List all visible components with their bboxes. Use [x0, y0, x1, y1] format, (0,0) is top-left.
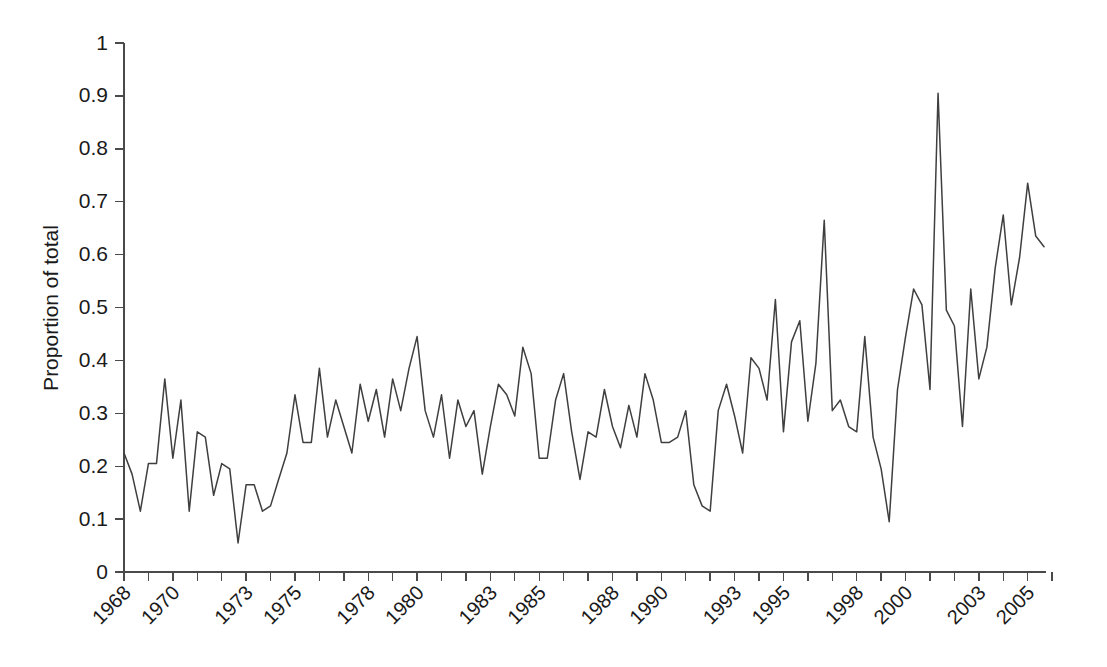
y-tick-label: 0.5 [79, 295, 108, 318]
chart-figure: 00.10.20.30.40.50.60.70.80.91 1968197019… [0, 0, 1107, 667]
y-axis-ticks [115, 43, 124, 572]
x-tick-label: 1990 [625, 581, 672, 628]
x-tick-label: 2005 [991, 581, 1038, 628]
y-tick-label: 0.4 [79, 348, 109, 371]
x-tick-label: 1995 [747, 581, 794, 628]
y-tick-label: 0.3 [79, 401, 108, 424]
y-axis-title: Proportion of total [39, 225, 62, 391]
line-chart: 00.10.20.30.40.50.60.70.80.91 1968197019… [0, 0, 1107, 667]
x-tick-label: 1988 [576, 581, 623, 628]
x-tick-label: 1985 [503, 581, 550, 628]
x-tick-label: 1983 [454, 581, 501, 628]
y-tick-label: 0.9 [79, 83, 108, 106]
y-tick-label: 0 [96, 560, 108, 583]
x-tick-label: 1970 [137, 581, 184, 628]
y-tick-label: 0.8 [79, 136, 108, 159]
x-tick-label: 1980 [381, 581, 428, 628]
x-axis-tick-labels: 1968197019731975197819801983198519881990… [88, 581, 1039, 628]
x-tick-label: 2003 [943, 581, 990, 628]
y-tick-label: 0.2 [79, 454, 108, 477]
y-tick-label: 1 [96, 31, 108, 54]
x-tick-label: 2000 [869, 581, 916, 628]
data-series-line [124, 93, 1044, 543]
x-tick-label: 1968 [88, 581, 135, 628]
x-tick-label: 1998 [821, 581, 868, 628]
x-axis-ticks [124, 572, 1052, 581]
x-tick-label: 1975 [259, 581, 306, 628]
y-tick-label: 0.6 [79, 242, 108, 265]
y-axis-tick-labels: 00.10.20.30.40.50.60.70.80.91 [79, 31, 109, 583]
x-tick-label: 1978 [332, 581, 379, 628]
x-tick-label: 1993 [698, 581, 745, 628]
y-tick-label: 0.7 [79, 189, 108, 212]
x-tick-label: 1973 [210, 581, 257, 628]
y-tick-label: 0.1 [79, 507, 108, 530]
